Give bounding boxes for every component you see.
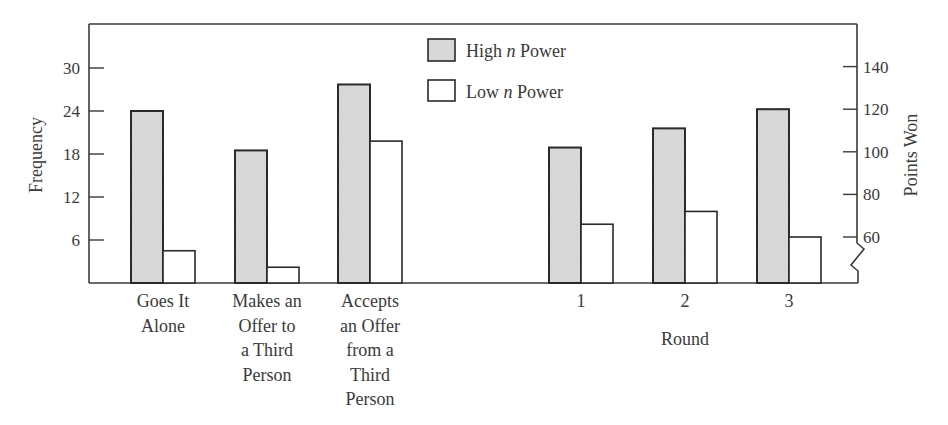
plot-frame	[89, 24, 864, 283]
left-axis-ticks: 612182430	[63, 59, 104, 250]
legend-swatch-high	[428, 39, 455, 61]
round-tick-labels: 123	[577, 291, 794, 311]
bar-high-n-power	[653, 128, 685, 283]
right-tick-label: 100	[863, 143, 889, 162]
right-tick-label: 80	[863, 185, 880, 204]
bar-low-n-power	[163, 251, 195, 283]
category-label: Goes It Alone	[108, 289, 218, 338]
right-axis-ticks: 6080100120140	[843, 58, 889, 247]
bar-low-n-power	[789, 237, 821, 283]
left-tick-label: 30	[63, 59, 80, 78]
round-tick-label: 3	[785, 291, 794, 311]
bar-low-n-power	[267, 267, 299, 283]
left-tick-label: 12	[63, 188, 80, 207]
bar-high-n-power	[549, 148, 581, 283]
left-tick-label: 6	[72, 231, 81, 250]
bar-low-n-power	[370, 141, 402, 283]
round-tick-label: 2	[681, 291, 690, 311]
legend-swatch-low	[428, 80, 455, 101]
left-tick-label: 18	[63, 145, 80, 164]
right-tick-label: 140	[863, 58, 889, 77]
bar-high-n-power	[757, 109, 789, 283]
bar-high-n-power	[235, 150, 267, 283]
right-tick-label: 60	[863, 228, 880, 247]
right-axis-title: Points Won	[901, 114, 921, 197]
bar-low-n-power	[581, 224, 613, 283]
bar-high-n-power	[131, 111, 163, 283]
bar-low-n-power	[685, 211, 717, 283]
chart-canvas: 612182430 6080100120140 Frequency Points…	[0, 0, 948, 425]
right-tick-label: 120	[863, 100, 889, 119]
category-label: Accepts an Offer from a Third Person	[315, 289, 425, 412]
round-axis-title: Round	[661, 329, 709, 349]
legend-label-low: Low n Power	[466, 82, 563, 102]
legend: High n Power Low n Power	[428, 39, 566, 102]
bars	[131, 84, 821, 283]
round-tick-label: 1	[577, 291, 586, 311]
legend-label-high: High n Power	[466, 41, 566, 61]
left-axis-title: Frequency	[26, 117, 46, 193]
category-label: Makes an Offer to a Third Person	[212, 289, 322, 387]
left-tick-label: 24	[63, 102, 81, 121]
bar-high-n-power	[338, 84, 370, 283]
